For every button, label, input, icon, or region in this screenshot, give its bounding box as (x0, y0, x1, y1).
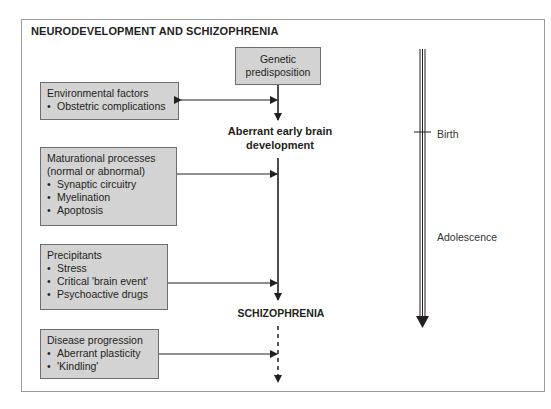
timeline-arrow (416, 49, 429, 328)
connector-arrows (0, 0, 551, 409)
